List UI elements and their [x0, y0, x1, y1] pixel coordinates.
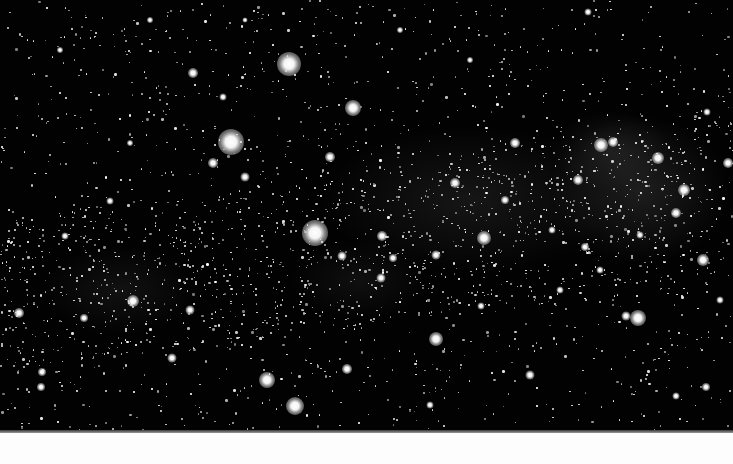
- bright-star: [702, 383, 710, 391]
- bright-star: [608, 137, 618, 147]
- bright-star: [450, 178, 460, 188]
- bright-star: [549, 227, 556, 234]
- blank-bottom-strip: [0, 433, 733, 464]
- bright-star: [585, 9, 592, 16]
- bright-star: [697, 254, 709, 266]
- bright-star: [208, 158, 218, 168]
- bright-star: [241, 173, 250, 182]
- bright-star: [389, 254, 397, 262]
- bright-star: [259, 372, 275, 388]
- bright-star: [127, 140, 133, 146]
- bright-star: [38, 368, 46, 376]
- bright-star: [277, 52, 301, 76]
- bright-star: [80, 314, 88, 322]
- bright-star: [501, 196, 509, 204]
- bright-star: [302, 220, 328, 246]
- bright-star: [338, 252, 347, 261]
- bright-star: [477, 231, 491, 245]
- bright-star: [107, 198, 114, 205]
- nebula-haze: [550, 110, 670, 190]
- bright-star: [526, 371, 535, 380]
- bright-star: [637, 232, 644, 239]
- bright-star: [37, 383, 45, 391]
- bright-star: [573, 175, 583, 185]
- bright-star: [62, 233, 69, 240]
- bright-star: [432, 251, 441, 260]
- bright-star: [168, 354, 177, 363]
- bright-star: [478, 303, 485, 310]
- nebula-haze: [290, 240, 430, 320]
- bright-star: [704, 109, 711, 116]
- bright-star: [652, 152, 664, 164]
- bright-star: [594, 138, 608, 152]
- bright-star: [243, 18, 248, 23]
- bright-star: [429, 332, 443, 346]
- bright-star: [127, 295, 139, 307]
- nebula-haze: [320, 125, 620, 275]
- bright-star: [723, 158, 733, 168]
- bright-star: [325, 152, 335, 162]
- bright-star: [510, 138, 520, 148]
- bright-star: [286, 397, 304, 415]
- bright-star: [377, 274, 386, 283]
- bright-star: [467, 57, 473, 63]
- bright-star: [345, 100, 361, 116]
- bright-star: [14, 308, 24, 318]
- bright-star: [57, 47, 63, 53]
- nebula-haze: [40, 245, 200, 335]
- bright-star: [427, 402, 434, 409]
- bright-star: [630, 310, 646, 326]
- bright-star: [581, 243, 589, 251]
- bright-star: [597, 267, 604, 274]
- bright-star: [188, 68, 198, 78]
- nebula-haze: [550, 115, 730, 265]
- bright-star: [220, 94, 227, 101]
- starfield-photo: [0, 0, 733, 432]
- bright-star: [147, 17, 153, 23]
- bright-star: [671, 208, 681, 218]
- bright-star: [218, 129, 244, 155]
- bright-star: [377, 231, 387, 241]
- bright-star: [342, 364, 352, 374]
- bright-star: [557, 287, 564, 294]
- bright-star: [186, 306, 195, 315]
- bright-star: [678, 184, 690, 196]
- bright-star: [397, 27, 403, 33]
- bright-star: [622, 312, 631, 321]
- bright-star: [673, 393, 680, 400]
- bright-star: [717, 297, 724, 304]
